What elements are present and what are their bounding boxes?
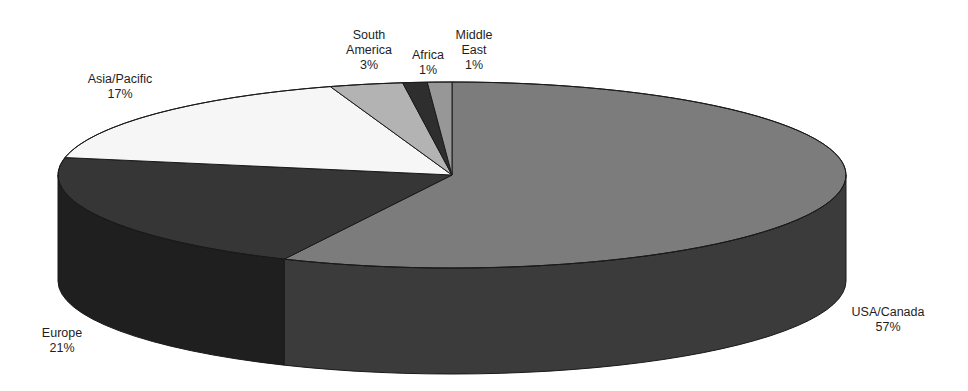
slice-percent: 21% [49,341,74,355]
slice-name: East [461,43,487,57]
slice-percent: 57% [875,320,900,334]
slice-label-europe: Europe21% [42,326,82,355]
slice-label-middle-east: MiddleEast1% [456,28,493,72]
slice-percent: 1% [419,63,437,77]
slice-name: Asia/Pacific [88,72,153,86]
slice-label-usa-canada: USA/Canada57% [852,305,925,334]
pie-top-faces [58,82,846,268]
slice-name: America [346,43,392,57]
slice-percent: 3% [360,58,378,72]
slice-percent: 17% [107,87,132,101]
pie-chart-canvas: USA/Canada57%Europe21%Asia/Pacific17%Sou… [0,0,968,391]
slice-name: South [353,28,386,42]
slice-name: USA/Canada [852,305,925,319]
slice-label-africa: Africa1% [412,48,444,77]
slice-name: Europe [42,326,82,340]
slice-label-south-america: SouthAmerica3% [346,28,392,72]
slice-name: Africa [412,48,444,62]
pie-chart: USA/Canada57%Europe21%Asia/Pacific17%Sou… [0,0,968,391]
slice-label-asia-pacific: Asia/Pacific17% [88,72,153,101]
slice-percent: 1% [465,58,483,72]
slice-name: Middle [456,28,493,42]
